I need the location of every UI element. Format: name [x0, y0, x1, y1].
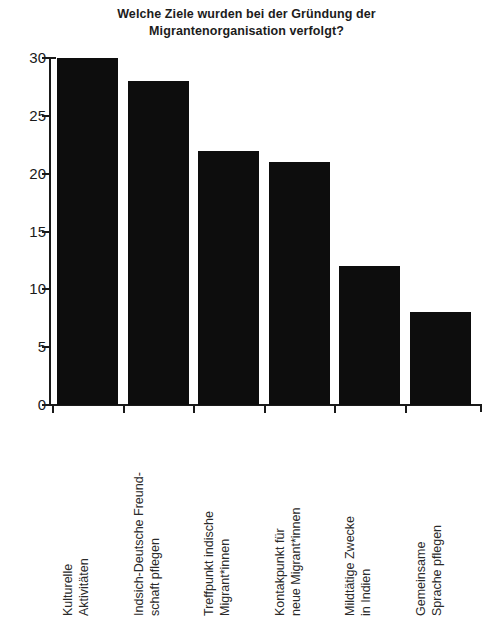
x-axis-tick	[334, 405, 336, 413]
chart-page: Welche Ziele wurden bei der Gründung der…	[0, 0, 493, 623]
y-axis-tick-label: 25	[6, 108, 46, 123]
bar-category-label-line-1: Gemeinsame	[414, 416, 430, 616]
bar-category-label: Indsich-Deutsche Freund-schaft pflegen	[132, 416, 163, 616]
bar-category-label-line-1: Mildtätige Zwecke	[343, 416, 359, 616]
bar-category-label-line-1: Treffpunkt indische	[202, 416, 218, 616]
plot-area: 051015202530 KulturelleAktivitätenIndsic…	[0, 0, 493, 623]
x-axis-right-cap	[480, 404, 482, 412]
y-axis-tick-label: 10	[6, 281, 46, 296]
y-axis-tick-label: 0	[6, 397, 46, 412]
bar-category-label: GemeinsameSprache pflegen	[414, 416, 445, 616]
x-axis-tick	[123, 405, 125, 413]
y-axis-top-cap	[49, 57, 56, 59]
x-axis-tick	[264, 405, 266, 413]
bar	[269, 162, 330, 405]
bar	[128, 81, 189, 405]
bar-category-label: Treffpunkt indischeMigrant*innen	[202, 416, 233, 616]
bar-category-label-line-2: schaft pflegen	[147, 416, 163, 616]
bar-category-label: Mildtätige Zweckein Indien	[343, 416, 374, 616]
x-axis-tick	[52, 405, 54, 413]
bar	[198, 151, 259, 405]
bar-category-label: KulturelleAktivitäten	[61, 416, 92, 616]
y-axis-tick-label: 30	[6, 50, 46, 65]
bar	[410, 312, 471, 405]
y-axis-tick-label: 20	[6, 166, 46, 181]
bar-category-label: Kontakpunkt fürneue Migrant*innen	[273, 416, 304, 616]
x-axis-tick	[193, 405, 195, 413]
bar-category-label-line-1: Kulturelle	[61, 416, 77, 616]
bar	[57, 58, 118, 405]
bar-category-label-line-2: Sprache pflegen	[429, 416, 445, 616]
bar-category-label-line-1: Kontakpunkt für	[273, 416, 289, 616]
y-axis-tick-label: 15	[6, 224, 46, 239]
bar-category-label-line-1: Indsich-Deutsche Freund-	[132, 416, 148, 616]
y-axis-tick-label: 5	[6, 339, 46, 354]
x-axis-tick	[405, 405, 407, 413]
bar	[339, 266, 400, 405]
bar-category-label-line-2: Aktivitäten	[77, 416, 93, 616]
bar-category-label-line-2: in Indien	[359, 416, 375, 616]
bar-category-label-line-2: Migrant*innen	[218, 416, 234, 616]
bar-category-label-line-2: neue Migrant*innen	[288, 416, 304, 616]
